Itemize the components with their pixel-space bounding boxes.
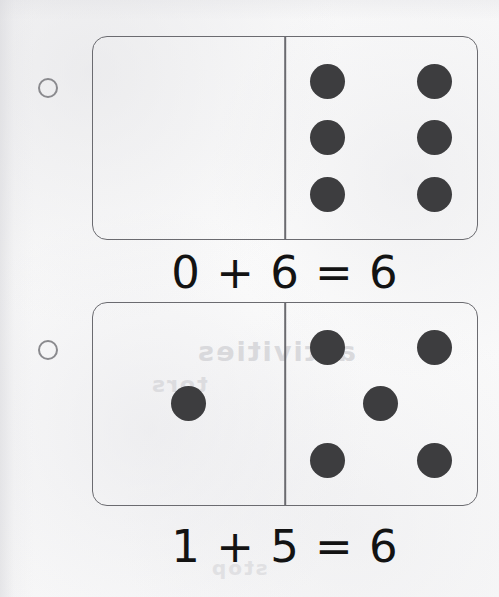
pip-grid-left-1: [108, 53, 269, 223]
pip: [310, 64, 345, 99]
pip: [310, 330, 345, 365]
domino-tile-2[interactable]: [92, 302, 478, 506]
equation-text-2: 1 + 5 = 6: [92, 524, 478, 569]
pip-grid-left-2: [108, 319, 269, 489]
pip: [310, 443, 345, 478]
pip: [310, 120, 345, 155]
domino-left-half-1: [93, 37, 285, 239]
pip: [363, 386, 398, 421]
pip: [171, 386, 206, 421]
pip: [417, 120, 452, 155]
pip-grid-right-2: [300, 319, 461, 489]
pip: [417, 177, 452, 212]
domino-tile-1[interactable]: [92, 36, 478, 240]
pip-grid-right-1: [300, 53, 461, 223]
domino-right-half-1: [285, 37, 477, 239]
pip: [417, 443, 452, 478]
pip: [417, 330, 452, 365]
equation-text-1: 0 + 6 = 6: [92, 250, 478, 295]
pip: [417, 64, 452, 99]
domino-right-half-2: [285, 303, 477, 505]
answer-choice-bullet-1[interactable]: [38, 78, 58, 98]
answer-choice-bullet-2[interactable]: [38, 340, 58, 360]
domino-left-half-2: [93, 303, 285, 505]
pip: [310, 177, 345, 212]
